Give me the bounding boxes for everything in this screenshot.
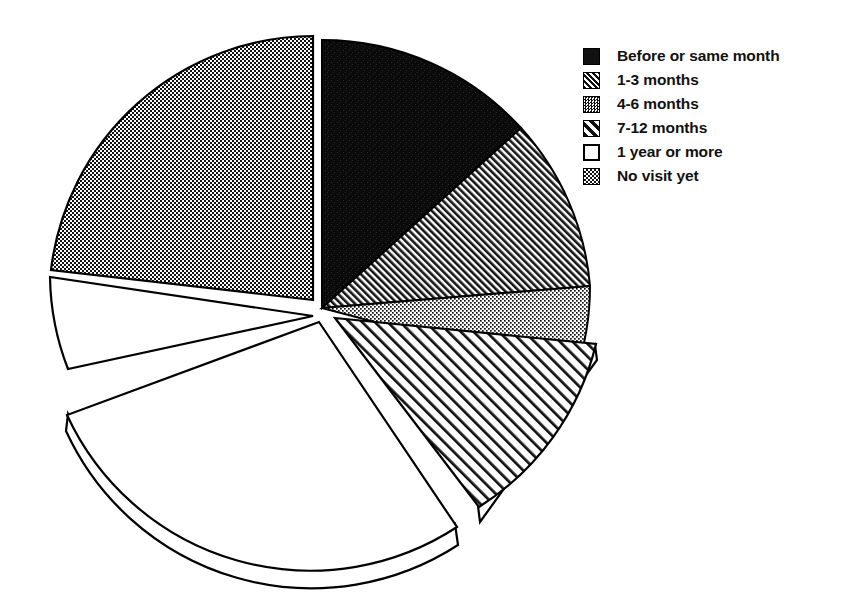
legend-item-no-visit-yet[interactable]: No visit yet xyxy=(583,164,858,188)
medium-dither-swatch xyxy=(583,168,600,185)
legend-label: 1 year or more xyxy=(617,144,722,160)
legend-label: 4-6 months xyxy=(617,96,699,112)
white-swatch xyxy=(583,144,600,161)
legend-label: Before or same month xyxy=(617,48,780,64)
legend-item-before-or-same-month[interactable]: Before or same month xyxy=(583,44,858,68)
wide-diagonal-hatch-swatch xyxy=(583,120,600,137)
pie-slices xyxy=(50,36,597,588)
pie-slice-no-visit-yet[interactable] xyxy=(51,36,313,300)
legend-item-one-to-three-months[interactable]: 1-3 months xyxy=(583,68,858,92)
legend-item-one-year-or-more[interactable]: 1 year or more xyxy=(583,140,858,164)
legend-item-seven-to-twelve-months[interactable]: 7-12 months xyxy=(583,116,858,140)
pie-chart-figure: Before or same month 1-3 months 4-6 mont… xyxy=(0,0,864,613)
dense-diagonal-hatch-swatch xyxy=(583,72,600,89)
solid-black-swatch xyxy=(583,48,600,65)
legend-label: No visit yet xyxy=(617,168,699,184)
legend-item-four-to-six-months[interactable]: 4-6 months xyxy=(583,92,858,116)
legend-label: 1-3 months xyxy=(617,72,699,88)
dark-dither-swatch xyxy=(583,96,600,113)
legend-label: 7-12 months xyxy=(617,120,707,136)
chart-legend: Before or same month 1-3 months 4-6 mont… xyxy=(583,44,858,188)
